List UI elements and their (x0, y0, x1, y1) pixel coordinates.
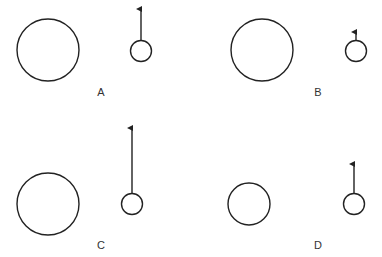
panel-label: D (314, 239, 322, 251)
large-circle (228, 183, 270, 225)
large-circle (231, 19, 293, 81)
panel-label: B (314, 86, 321, 98)
panel-c: C (17, 128, 143, 251)
panel-d: D (228, 164, 365, 251)
panel-label: C (97, 239, 105, 251)
small-circle (344, 194, 365, 215)
panel-a: A (17, 9, 152, 98)
small-circle (346, 41, 367, 62)
small-circle (131, 41, 152, 62)
large-circle (17, 173, 79, 235)
small-circle (122, 194, 143, 215)
panel-b: B (231, 19, 367, 98)
diagram-canvas: A B C D (0, 0, 382, 257)
large-circle (17, 19, 79, 81)
panel-label: A (97, 86, 105, 98)
